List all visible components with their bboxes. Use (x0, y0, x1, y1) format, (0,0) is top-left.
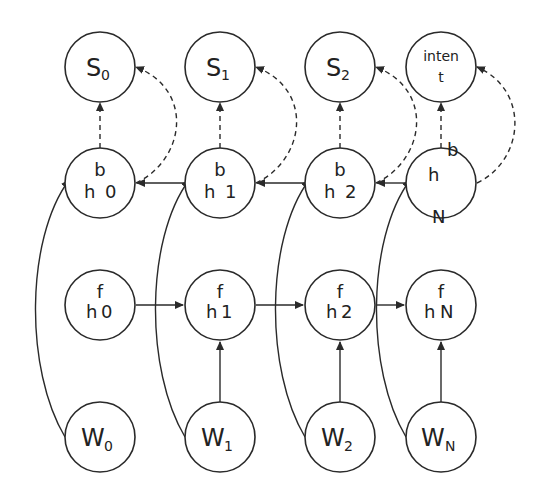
node-hf1-sup: f (217, 281, 224, 302)
node-hf2: f h 2 (305, 270, 375, 340)
node-w0-sub: 0 (104, 438, 113, 454)
node-hf2-main: h (326, 301, 337, 322)
node-hfN: f h N (406, 270, 476, 340)
node-hfN-idx: N (440, 301, 453, 322)
node-w2-sub: 2 (344, 438, 353, 454)
node-hbN-idx: N (432, 206, 445, 227)
node-hf0-sup: f (97, 281, 104, 302)
node-hf2-sup: f (337, 281, 344, 302)
node-w2: W 2 (305, 402, 375, 472)
node-s1-sub: 1 (221, 67, 230, 83)
node-s0-label: S (86, 54, 101, 82)
node-wN-label: W (421, 424, 445, 452)
node-w1-sub: 1 (224, 438, 233, 454)
node-hb2: b h 2 (305, 148, 375, 218)
node-hb0-idx: 0 (105, 181, 116, 202)
node-wN-sub: N (445, 438, 455, 454)
edge-w1-to-hb1 (155, 180, 189, 437)
node-hf1-idx: 1 (221, 301, 232, 322)
node-s0: S 0 (65, 32, 135, 102)
edge-curve-to-s0 (136, 67, 177, 183)
node-wN: W N (406, 402, 476, 472)
node-s2: S 2 (305, 32, 375, 102)
node-hfN-main: h (424, 301, 435, 322)
node-hf0-main: h (86, 301, 97, 322)
node-intent-line1: inten (423, 48, 459, 64)
input-row: W 0 W 1 W 2 W N (65, 402, 476, 472)
node-hbN-sup: b (447, 139, 458, 160)
edge-curve-to-s1 (256, 67, 297, 183)
node-hf0: f h 0 (65, 270, 135, 340)
node-intent-line2: t (438, 69, 444, 85)
node-s2-sub: 2 (341, 67, 350, 83)
node-hb2-main: h (324, 181, 335, 202)
edge-w2-to-hb2 (275, 180, 309, 437)
node-w0-label: W (81, 424, 105, 452)
node-hb0-sup: b (94, 159, 105, 180)
node-hbN: b h N (406, 139, 476, 227)
node-hf1: f h 1 (185, 270, 255, 340)
node-hb1: b h 1 (185, 148, 255, 218)
node-s1: S 1 (185, 32, 255, 102)
node-hf1-main: h (206, 301, 217, 322)
node-hb2-sup: b (334, 159, 345, 180)
node-hb0-main: h (84, 181, 95, 202)
node-w2-label: W (321, 424, 345, 452)
node-s0-sub: 0 (101, 67, 110, 83)
node-s2-label: S (326, 54, 341, 82)
node-intent: inten t (406, 32, 476, 102)
node-hbN-main: h (428, 164, 439, 185)
node-hfN-sup: f (438, 281, 445, 302)
node-hb1-sup: b (214, 159, 225, 180)
node-s1-label: S (206, 54, 221, 82)
node-hf2-idx: 2 (341, 301, 352, 322)
node-hb2-idx: 2 (345, 181, 356, 202)
node-hf0-idx: 0 (101, 301, 112, 322)
bidirectional-rnn-diagram: S 0 S 1 S 2 inten t b h 0 b h (0, 0, 539, 500)
edge-wN-to-hbN (376, 180, 410, 437)
edge-w0-to-hb0 (35, 180, 69, 437)
node-hb0: b h 0 (65, 148, 135, 218)
edge-curve-to-intent (477, 67, 515, 183)
output-row: S 0 S 1 S 2 inten t (65, 32, 476, 102)
node-w1-label: W (201, 424, 225, 452)
node-hb1-idx: 1 (225, 181, 236, 202)
node-w0: W 0 (65, 402, 135, 472)
node-hb1-main: h (204, 181, 215, 202)
node-w1: W 1 (185, 402, 255, 472)
edges (35, 67, 514, 437)
